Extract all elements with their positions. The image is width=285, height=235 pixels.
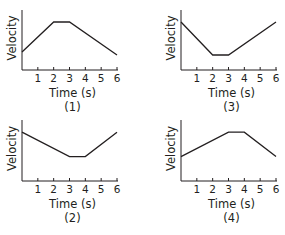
chart-1: 123456VelocityTime (s)(1) [5,10,121,114]
x-tick-label: 1 [34,72,41,84]
panel-label: (3) [223,100,239,114]
x-axis-label: Time (s) [207,86,255,100]
x-tick-label: 2 [209,183,216,195]
axes [181,120,277,181]
x-tick-label: 1 [193,183,200,195]
velocity-line [181,22,276,55]
panel-label: (1) [64,100,80,114]
x-tick-label: 5 [257,183,264,195]
x-tick-label: 4 [82,183,89,195]
chart-2: 123456VelocityTime (s)(2) [5,120,121,225]
axes [22,10,118,70]
velocity-line [181,132,276,156]
x-tick-label: 6 [114,183,121,195]
x-tick-label: 1 [34,183,41,195]
y-axis-label: Velocity [164,126,178,171]
x-axis-label: Time (s) [48,197,96,211]
velocity-line [22,132,117,156]
x-tick-label: 2 [50,183,57,195]
x-tick-label: 6 [114,72,121,84]
x-tick-label: 6 [273,72,280,84]
x-tick-label: 5 [257,72,264,84]
x-tick-label: 2 [209,72,216,84]
y-axis-label: Velocity [5,15,19,60]
x-tick-label: 4 [241,183,248,195]
y-axis-label: Velocity [164,15,178,60]
panel-label: (4) [223,211,239,225]
x-tick-label: 2 [50,72,57,84]
x-tick-label: 3 [66,183,73,195]
x-tick-label: 3 [66,72,73,84]
x-tick-label: 3 [225,72,232,84]
chart-4: 123456VelocityTime (s)(4) [164,120,280,225]
axes [22,120,118,181]
x-axis-label: Time (s) [207,197,255,211]
velocity-line [22,22,117,55]
x-tick-label: 3 [225,183,232,195]
axes [181,10,277,70]
x-tick-label: 6 [273,183,280,195]
x-tick-label: 4 [82,72,89,84]
x-tick-label: 5 [98,72,105,84]
x-axis-label: Time (s) [48,86,96,100]
x-tick-label: 1 [193,72,200,84]
panel-label: (2) [64,211,80,225]
y-axis-label: Velocity [5,126,19,171]
chart-3: 123456VelocityTime (s)(3) [164,10,280,114]
x-tick-label: 4 [241,72,248,84]
velocity-time-graphs-figure: 123456VelocityTime (s)(1)123456VelocityT… [0,0,285,235]
x-tick-label: 5 [98,183,105,195]
